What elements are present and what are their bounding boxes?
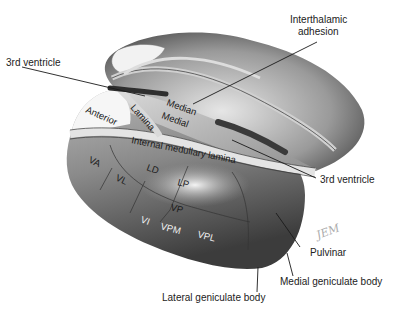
label-interthalamic-line2: adhesion [298,26,339,37]
leader-medial-geniculate [287,253,293,276]
label-interthalamic-line1: Interthalamic [290,14,347,25]
artist-signature: JEM [313,221,342,242]
thalamus-diagram: 3rd ventricle Interthalamic adhesion 3rd… [0,0,398,309]
label-third-ventricle-left: 3rd ventricle [6,57,61,68]
thalamus-illustration: 3rd ventricle Interthalamic adhesion 3rd… [0,0,398,309]
leader-lateral-geniculate [257,267,258,292]
label-third-ventricle-right: 3rd ventricle [320,174,375,185]
label-medial-geniculate: Medial geniculate body [280,276,382,287]
label-lateral-geniculate: Lateral geniculate body [162,292,265,303]
label-pulvinar: Pulvinar [310,247,347,258]
